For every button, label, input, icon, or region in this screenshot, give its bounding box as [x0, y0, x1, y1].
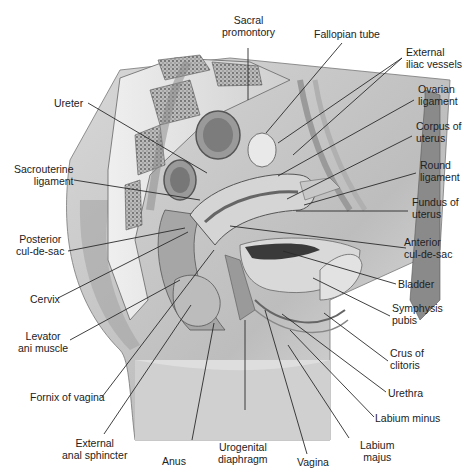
- label-line: Sacrouterine: [14, 163, 74, 175]
- anatomy-diagram: Sacral promontory Fallopian tube Externa…: [0, 0, 472, 475]
- label-crus-of-clitoris: Crus of clitoris: [390, 347, 424, 371]
- label-ureter: Ureter: [54, 97, 83, 109]
- label-line: diaphragm: [218, 453, 268, 465]
- label-line: Labium minus: [375, 412, 440, 424]
- label-external-anal-sphincter: External anal sphincter: [62, 437, 127, 461]
- label-line: Anus: [162, 455, 186, 467]
- label-line: clitoris: [390, 359, 424, 371]
- label-anterior-cul-de-sac: Anterior cul-de-sac: [404, 236, 452, 260]
- label-line: uterus: [416, 132, 462, 144]
- label-sacral-promontory: Sacral promontory: [222, 14, 275, 38]
- label-posterior-cul-de-sac: Posterior cul-de-sac: [16, 233, 64, 257]
- label-fallopian-tube: Fallopian tube: [314, 28, 380, 40]
- label-line: Ureter: [54, 97, 83, 109]
- label-line: ani muscle: [18, 342, 68, 354]
- label-corpus-of-uterus: Corpus of uterus: [416, 120, 462, 144]
- label-line: Levator: [18, 330, 68, 342]
- label-line: iliac vessels: [406, 58, 462, 70]
- label-ovarian-ligament: Ovarian ligament: [418, 83, 458, 107]
- label-line: uterus: [412, 208, 459, 220]
- label-cervix: Cervix: [30, 293, 60, 305]
- label-line: External: [62, 437, 127, 449]
- label-fornix-of-vagina: Fornix of vagina: [30, 391, 105, 403]
- label-sacrouterine-ligament: Sacrouterine ligament: [14, 163, 74, 187]
- label-line: Anterior: [404, 236, 452, 248]
- label-line: Labium: [360, 439, 394, 451]
- label-vagina: Vagina: [297, 456, 329, 468]
- label-line: Fallopian tube: [314, 28, 380, 40]
- label-line: Fornix of vagina: [30, 391, 105, 403]
- label-line: Urogenital: [218, 441, 268, 453]
- label-line: anal sphincter: [62, 449, 127, 461]
- label-line: Cervix: [30, 293, 60, 305]
- label-round-ligament: Round ligament: [420, 159, 460, 183]
- label-symphysis-pubis: Symphysis pubis: [392, 302, 443, 326]
- label-urogenital-diaphragm: Urogenital diaphragm: [218, 441, 268, 465]
- label-line: majus: [360, 451, 394, 463]
- label-urethra: Urethra: [388, 387, 423, 399]
- label-fundus-of-uterus: Fundus of uterus: [412, 196, 459, 220]
- label-line: Crus of: [390, 347, 424, 359]
- label-labium-minus: Labium minus: [375, 412, 440, 424]
- label-external-iliac-vessels: External iliac vessels: [406, 46, 462, 70]
- label-levator-ani-muscle: Levator ani muscle: [18, 330, 68, 354]
- label-labium-majus: Labium majus: [360, 439, 394, 463]
- label-line: ligament: [420, 171, 460, 183]
- label-line: cul-de-sac: [16, 245, 64, 257]
- label-line: promontory: [222, 26, 275, 38]
- label-line: ligament: [418, 95, 458, 107]
- label-line: Sacral: [222, 14, 275, 26]
- label-line: Vagina: [297, 456, 329, 468]
- label-line: pubis: [392, 314, 443, 326]
- pelvis-illustration: [0, 0, 472, 475]
- label-line: Symphysis: [392, 302, 443, 314]
- label-bladder: Bladder: [398, 278, 434, 290]
- label-line: Fundus of: [412, 196, 459, 208]
- label-line: Ovarian: [418, 83, 458, 95]
- label-anus: Anus: [162, 455, 186, 467]
- ovary: [248, 133, 276, 167]
- label-line: External: [406, 46, 462, 58]
- label-line: Round: [420, 159, 460, 171]
- label-line: ligament: [14, 175, 74, 187]
- label-line: Posterior: [16, 233, 64, 245]
- label-line: Urethra: [388, 387, 423, 399]
- label-line: Corpus of: [416, 120, 462, 132]
- label-line: Bladder: [398, 278, 434, 290]
- label-line: cul-de-sac: [404, 248, 452, 260]
